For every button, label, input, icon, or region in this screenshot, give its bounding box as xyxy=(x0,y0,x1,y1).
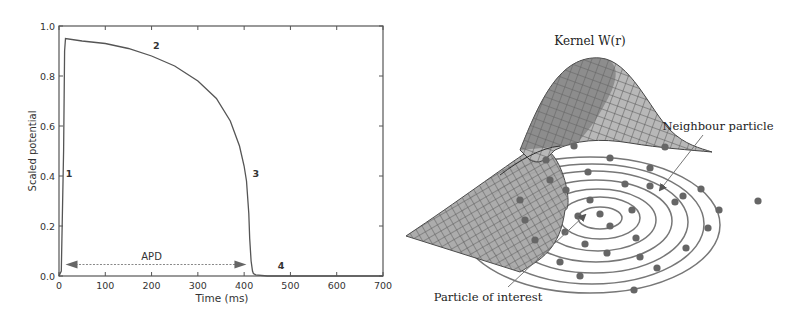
particle-dot xyxy=(562,186,569,193)
x-tick-label: 0 xyxy=(56,280,62,291)
particle-dot xyxy=(754,197,761,204)
particle-dot xyxy=(653,264,660,271)
particle-dot xyxy=(636,253,643,260)
particle-dot xyxy=(704,224,711,231)
phase-label: 3 xyxy=(252,168,259,179)
particle-dot xyxy=(715,206,722,213)
particle-dot xyxy=(603,249,610,256)
x-tick-label: 400 xyxy=(235,280,253,291)
particle-dot xyxy=(521,216,528,223)
particle-dot xyxy=(606,154,613,161)
particle-dot xyxy=(682,244,689,251)
particle-dot xyxy=(546,176,553,183)
y-axis-label: Scaled potential xyxy=(27,111,38,192)
particle-dot xyxy=(630,286,637,293)
sph-kernel-diagram: Kernel W(r) Neighbour particle Particle … xyxy=(395,0,801,323)
phase-label: 1 xyxy=(66,168,73,179)
particle-dot xyxy=(679,192,686,199)
phase-label: 4 xyxy=(278,260,285,271)
neighbour-particle-label: Neighbour particle xyxy=(662,119,773,133)
x-tick-label: 700 xyxy=(374,280,392,291)
particle-dot xyxy=(661,143,668,150)
particle-of-interest-label: Particle of interest xyxy=(434,290,543,304)
arrow-right-icon xyxy=(234,261,246,269)
plot-frame xyxy=(59,26,383,276)
x-axis-ticks: 0100200300400500600700 xyxy=(56,26,392,291)
particle-dot xyxy=(596,210,603,217)
particle-dot xyxy=(697,185,704,192)
x-tick-label: 100 xyxy=(96,280,114,291)
y-tick-label: 0.8 xyxy=(40,71,55,82)
particle-dot xyxy=(628,206,635,213)
kernel-title: Kernel W(r) xyxy=(554,34,625,48)
y-axis-ticks: 0.00.20.40.60.81.0 xyxy=(40,21,383,282)
particle-dot xyxy=(646,164,653,171)
phase-label: 2 xyxy=(153,40,160,51)
particle-dot xyxy=(570,142,577,149)
particle-dot xyxy=(586,196,593,203)
y-tick-label: 0.2 xyxy=(40,221,55,232)
particle-dot xyxy=(576,272,583,279)
x-tick-label: 600 xyxy=(328,280,346,291)
particle-dot xyxy=(531,236,538,243)
particle-dot xyxy=(584,168,591,175)
action-potential-line xyxy=(59,39,383,277)
phase-annotations: 1234APD xyxy=(65,40,284,271)
arrow-left-icon xyxy=(65,261,77,269)
x-tick-label: 500 xyxy=(281,280,299,291)
particle-dot xyxy=(556,258,563,265)
y-tick-label: 0.4 xyxy=(40,171,55,182)
particle-dot xyxy=(646,182,653,189)
x-tick-label: 300 xyxy=(189,280,207,291)
action-potential-chart: 0.00.20.40.60.81.0 010020030040050060070… xyxy=(0,0,400,323)
particle-dot xyxy=(581,240,588,247)
particle-dot xyxy=(516,196,523,203)
x-axis-label: Time (ms) xyxy=(195,292,249,304)
y-tick-label: 1.0 xyxy=(40,21,55,32)
particle-dot xyxy=(671,198,678,205)
particle-dot xyxy=(621,180,628,187)
particle-dot xyxy=(632,234,639,241)
y-tick-label: 0.6 xyxy=(40,121,55,132)
particle-dot xyxy=(606,222,613,229)
particle-dot xyxy=(542,156,549,163)
x-tick-label: 200 xyxy=(143,280,161,291)
apd-label: APD xyxy=(141,251,162,262)
y-tick-label: 0.0 xyxy=(40,271,55,282)
